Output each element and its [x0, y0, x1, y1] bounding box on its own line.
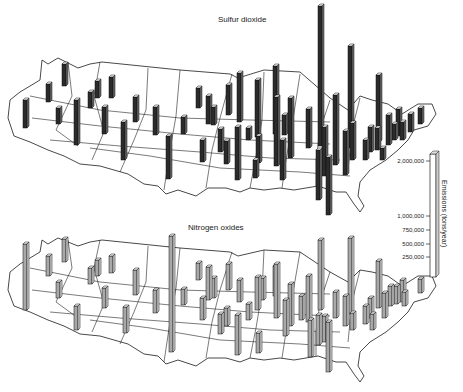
state-bar: [224, 306, 230, 326]
state-bar: [226, 262, 232, 290]
scale-tick-label: 250,000: [402, 254, 424, 260]
state-bar: [153, 288, 159, 313]
state-bar: [102, 105, 108, 134]
state-bar: [283, 298, 289, 336]
state-bar: [95, 79, 101, 98]
state-bar: [23, 242, 29, 310]
state-bar: [62, 237, 68, 262]
state-bar: [316, 313, 322, 345]
state-bar: [23, 98, 29, 128]
nitrogen-oxides-map: Nitrogen oxides: [8, 223, 436, 382]
state-bar: [375, 126, 381, 150]
state-bar: [95, 258, 101, 276]
state-bar: [333, 93, 339, 165]
state-bar: [102, 286, 108, 308]
state-bar: [326, 320, 332, 372]
state-bar: [306, 107, 312, 148]
state-bar: [326, 155, 332, 215]
sulfur-dioxide-title: Sulfur dioxide: [218, 15, 267, 24]
sulfur-dioxide-map: Sulfur dioxide: [8, 4, 436, 215]
sulfur-dioxide-bars: [23, 4, 424, 215]
state-bar: [218, 127, 224, 152]
state-bar: [123, 305, 129, 333]
state-bar: [200, 138, 206, 162]
state-bar: [46, 82, 52, 102]
state-bar: [376, 259, 382, 308]
state-bar: [274, 262, 280, 318]
state-bar: [206, 265, 212, 300]
state-bar: [121, 120, 127, 160]
state-bar: [363, 138, 369, 160]
state-bar: [418, 106, 424, 124]
state-bar: [253, 158, 259, 178]
state-bar: [181, 287, 187, 305]
state-bar: [235, 125, 241, 180]
scale-tick-label: 1,000,000: [397, 213, 424, 219]
scale-axis-label: Emissions (tons/year): [440, 180, 448, 247]
state-bar: [74, 304, 80, 330]
state-bar: [246, 126, 252, 140]
state-bar: [74, 98, 80, 145]
state-bar: [306, 274, 312, 322]
state-bar: [318, 238, 324, 310]
state-bar: [274, 95, 280, 166]
state-bar: [402, 290, 408, 306]
nitrogen-oxides-title: Nitrogen oxides: [188, 223, 244, 232]
state-bar: [288, 96, 294, 158]
state-bar: [316, 148, 322, 200]
state-bar: [280, 138, 286, 180]
state-bar: [256, 331, 262, 353]
state-bar: [333, 290, 339, 318]
state-bar: [299, 294, 305, 320]
state-bar: [200, 296, 206, 320]
scale-bar-front: [430, 154, 436, 277]
state-bar: [343, 129, 349, 175]
state-bar: [370, 312, 376, 330]
state-bar: [181, 115, 187, 134]
state-bar: [166, 134, 172, 179]
emissions-scale-bar: 2,000,0001,000,000750,000500,000250,000 …: [397, 151, 448, 277]
state-bar: [133, 95, 139, 122]
state-bar: [400, 120, 406, 140]
state-bar: [282, 113, 288, 135]
state-bar: [196, 86, 202, 108]
state-bar: [88, 266, 94, 284]
state-bar: [109, 254, 115, 273]
state-bar: [109, 75, 115, 98]
state-bar: [255, 78, 261, 137]
state-bar: [343, 294, 349, 326]
state-bar: [350, 121, 356, 160]
emissions-figure: Sulfur dioxide Nitrogen oxides: [0, 0, 463, 392]
state-bar: [226, 83, 232, 115]
state-bar: [380, 146, 386, 160]
state-bar: [153, 105, 159, 135]
state-bar: [169, 234, 175, 352]
scale-ticks: 2,000,0001,000,000750,000500,000250,000: [397, 158, 430, 260]
state-bar: [386, 113, 392, 145]
scale-tick-label: 500,000: [402, 241, 424, 247]
state-bar: [318, 4, 324, 146]
state-bar: [388, 284, 394, 306]
state-bar: [246, 302, 252, 320]
state-bar: [392, 122, 398, 140]
scale-bar-side: [436, 151, 439, 277]
state-bar: [133, 268, 139, 295]
state-bar: [255, 275, 261, 310]
state-bar: [408, 112, 414, 132]
state-bar: [196, 261, 202, 280]
state-bar: [224, 139, 230, 164]
state-bar: [237, 71, 243, 122]
state-bar: [62, 62, 68, 86]
state-bar: [418, 277, 424, 293]
state-bar: [46, 254, 52, 276]
nitrogen-oxides-bars: [23, 234, 424, 372]
state-bar: [235, 313, 241, 355]
scale-tick-label: 750,000: [402, 227, 424, 233]
state-bar: [308, 318, 314, 357]
state-bar: [363, 304, 369, 324]
state-bar: [237, 278, 243, 302]
state-bar: [211, 105, 217, 125]
state-bar: [350, 311, 356, 330]
state-bar: [56, 106, 62, 124]
state-bar: [218, 312, 224, 334]
